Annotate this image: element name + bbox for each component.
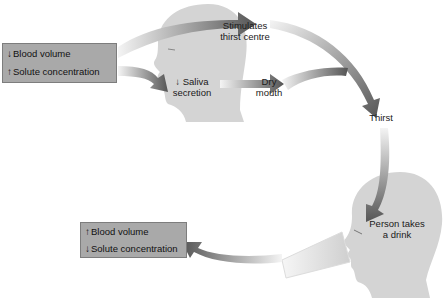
increase-arrow-icon: ↑ xyxy=(85,226,90,237)
person-takes-drink-label: Person takes a drink xyxy=(364,218,430,240)
decrease-arrow-icon: ↓ xyxy=(175,76,180,87)
end-state-box: ↑Blood volume ↓Solute concentration xyxy=(80,222,187,258)
dry-mouth-label: Dry mouth xyxy=(252,76,286,98)
saliva-secretion-label: ↓ Saliva secretion xyxy=(168,76,216,98)
start-blood-volume-row: ↓Blood volume xyxy=(7,48,71,59)
end-solute-row: ↓Solute concentration xyxy=(85,243,178,254)
decrease-arrow-icon: ↓ xyxy=(85,243,90,254)
thirst-label: Thirst xyxy=(364,112,398,123)
glass-icon xyxy=(282,232,350,278)
increase-arrow-icon: ↑ xyxy=(7,66,12,77)
decrease-arrow-icon: ↓ xyxy=(7,48,12,59)
thirst-centre-label: Stimulates thirst centre xyxy=(215,20,275,42)
start-state-box: ↓Blood volume ↑Solute concentration xyxy=(2,43,117,83)
arrow-to-end-box xyxy=(182,242,282,264)
arrow-dry-mouth-join xyxy=(282,68,348,91)
start-solute-row: ↑Solute concentration xyxy=(7,66,100,77)
end-blood-volume-row: ↑Blood volume xyxy=(85,226,149,237)
